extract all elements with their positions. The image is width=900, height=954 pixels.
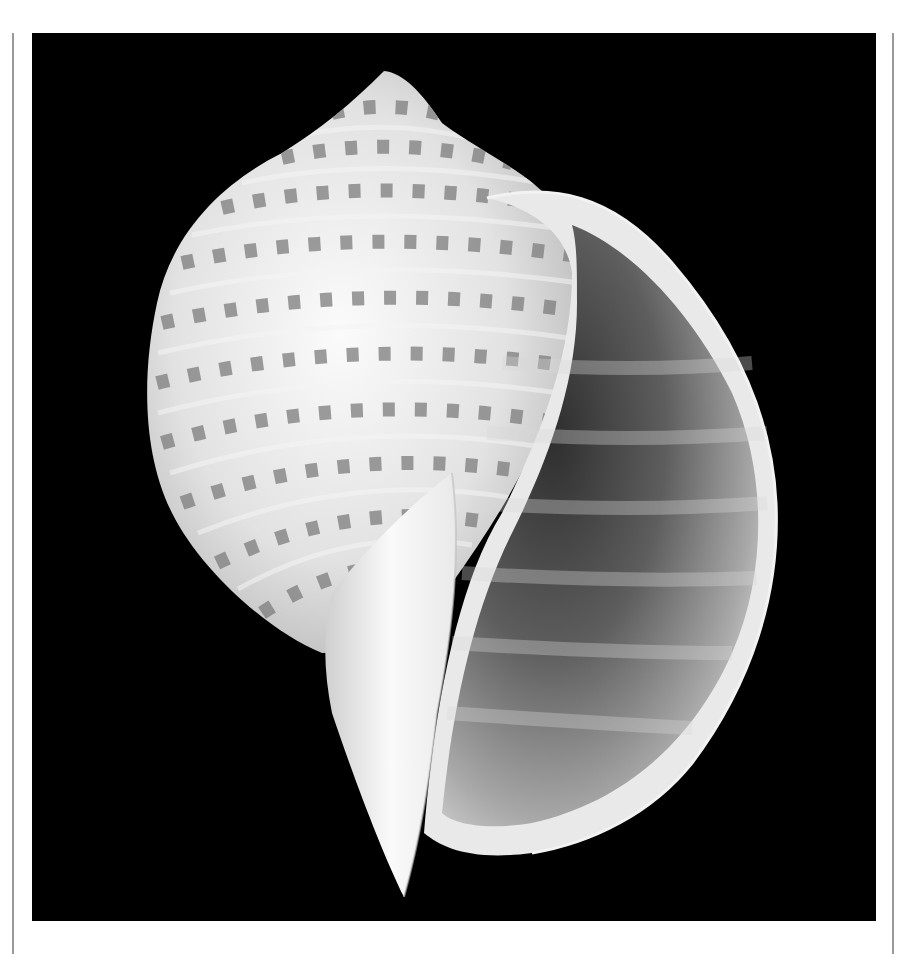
faint-bleed-through: [50, 928, 870, 948]
page-right-rule: [892, 33, 894, 954]
shell-photograph: Tonna shell (tun shell) photographed aga…: [32, 33, 876, 921]
page-left-rule: [12, 33, 14, 954]
shell-illustration: [32, 33, 876, 921]
